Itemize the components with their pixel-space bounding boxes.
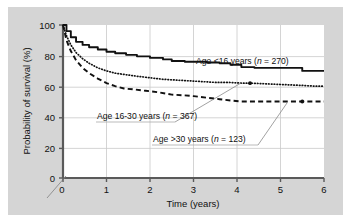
x-axis-title: Time (years) <box>167 198 220 209</box>
annotation-age-over-30-text: Age >30 years ( <box>153 134 214 144</box>
survival-curve-chart: 100 80 60 40 20 0 0 1 2 3 4 5 6 Time (ye… <box>0 0 351 222</box>
y-tick-label-60: 60 <box>44 82 55 93</box>
marker-point-age-over-30 <box>300 100 304 104</box>
x-tick-label-0: 0 <box>59 184 64 195</box>
x-tick-label-2: 2 <box>147 184 152 195</box>
annotation-age-over-30-tail: = 123) <box>219 134 246 144</box>
y-tick-label-80: 80 <box>44 51 55 62</box>
x-tick-label-1: 1 <box>104 184 109 195</box>
annotation-age-under-16: Age <16 years (n = 270) <box>196 56 289 66</box>
annotation-age-under-16-text: Age <16 years ( <box>196 56 257 66</box>
annotation-age-16-30: Age 16-30 years (n = 367) <box>97 111 197 121</box>
annotation-age-over-30: Age >30 years (n = 123) <box>153 134 246 144</box>
y-tick-label-100: 100 <box>39 20 55 31</box>
x-tick-label-6: 6 <box>321 184 326 195</box>
y-tick-label-20: 20 <box>44 143 55 154</box>
y-axis-title: Probability of survival (%) <box>21 47 32 154</box>
annotation-age-16-30-text: Age 16-30 years ( <box>97 111 165 121</box>
x-tick-label-5: 5 <box>278 184 283 195</box>
marker-point-age-16-30 <box>248 81 252 85</box>
x-tick-label-3: 3 <box>191 184 196 195</box>
y-tick-label-0: 0 <box>50 173 55 184</box>
y-tick-label-40: 40 <box>44 112 55 123</box>
annotation-age-16-30-tail: = 367) <box>170 111 197 121</box>
annotation-age-under-16-tail: = 270) <box>262 56 289 66</box>
figure-container: 100 80 60 40 20 0 0 1 2 3 4 5 6 Time (ye… <box>0 0 351 222</box>
x-tick-label-4: 4 <box>234 184 239 195</box>
